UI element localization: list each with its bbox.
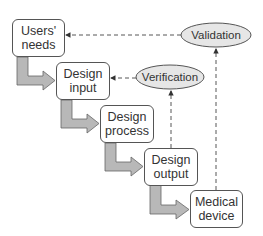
stage-design-input: Design input	[56, 62, 110, 100]
stage-label-line1: Design	[152, 153, 191, 167]
flow-arrow-1	[17, 57, 55, 90]
stage-design-output: Design output	[144, 148, 198, 186]
stage-label-line2: output	[154, 167, 189, 181]
stage-medical-device: Medical device	[190, 190, 243, 228]
stage-label-line2: needs	[21, 38, 55, 52]
flow-arrow-4	[150, 185, 189, 219]
verification-label: Verification	[136, 65, 204, 89]
stage-label-line2: input	[69, 81, 96, 95]
stage-users-needs: Users' needs	[12, 19, 65, 57]
stage-label-line1: Design	[108, 110, 147, 124]
stage-label-line1: Design	[64, 67, 103, 81]
validation-label: Validation	[181, 23, 251, 47]
stage-label-line2: process	[105, 124, 149, 138]
stage-label-line1: Users'	[21, 24, 56, 38]
stage-design-process: Design process	[100, 105, 154, 143]
stage-label-line1: Medical	[195, 195, 238, 209]
flow-arrow-2	[61, 100, 99, 133]
flow-arrow-3	[105, 143, 143, 176]
stage-label-line2: device	[198, 209, 234, 223]
